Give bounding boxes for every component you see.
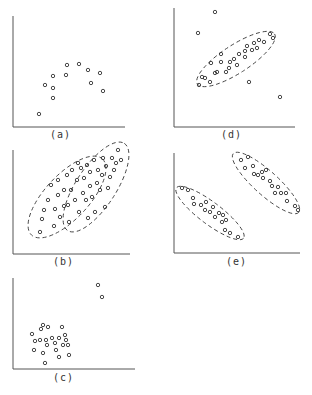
panel-a xyxy=(13,16,125,127)
data-point xyxy=(268,179,271,182)
data-point xyxy=(273,191,276,194)
data-point xyxy=(98,71,101,74)
data-point xyxy=(108,175,111,178)
data-point xyxy=(57,355,60,358)
panel-label-d: (d) xyxy=(221,129,242,140)
data-point xyxy=(66,343,69,346)
data-point xyxy=(264,168,267,171)
data-point xyxy=(77,210,80,213)
data-point xyxy=(65,63,68,66)
data-point xyxy=(239,158,242,161)
data-point xyxy=(82,176,85,179)
data-point xyxy=(228,231,231,234)
data-point xyxy=(192,202,195,205)
data-point xyxy=(70,168,73,171)
data-point xyxy=(213,215,216,218)
data-point xyxy=(255,46,258,49)
data-point xyxy=(57,336,60,339)
data-point xyxy=(112,168,115,171)
data-point xyxy=(79,166,82,169)
data-point xyxy=(56,193,59,196)
data-point xyxy=(75,178,78,181)
panel-label-a: (a) xyxy=(50,129,71,140)
data-point xyxy=(186,188,189,191)
data-point xyxy=(119,158,122,161)
data-point xyxy=(101,89,104,92)
data-point xyxy=(81,191,84,194)
data-point xyxy=(46,198,49,201)
data-point xyxy=(53,207,56,210)
data-point xyxy=(32,348,35,351)
data-point xyxy=(268,32,271,35)
data-point xyxy=(279,191,282,194)
data-point xyxy=(90,195,93,198)
panel-label-e: (e) xyxy=(226,256,247,267)
data-point xyxy=(52,224,55,227)
data-point xyxy=(296,208,299,211)
panel-label-c: (c) xyxy=(53,372,74,383)
data-point xyxy=(98,188,101,191)
panel-e xyxy=(170,145,307,253)
data-point xyxy=(213,10,216,13)
data-point xyxy=(65,173,68,176)
data-point xyxy=(38,230,41,233)
figure-canvas xyxy=(0,0,312,395)
data-point xyxy=(110,156,113,159)
data-point xyxy=(41,323,44,326)
data-point xyxy=(45,343,48,346)
data-point xyxy=(40,217,43,220)
data-point xyxy=(276,185,279,188)
data-point xyxy=(227,66,230,69)
data-point xyxy=(219,60,222,63)
data-point xyxy=(246,155,249,158)
data-point xyxy=(96,283,99,286)
data-point xyxy=(236,235,239,238)
axes xyxy=(13,150,130,254)
panel-c xyxy=(13,278,135,369)
data-point xyxy=(33,339,36,342)
data-point xyxy=(271,36,274,39)
data-point xyxy=(88,170,91,173)
data-point xyxy=(220,220,223,223)
cluster-ellipse xyxy=(170,179,250,247)
data-point xyxy=(250,48,253,51)
data-point xyxy=(191,196,194,199)
axes xyxy=(13,16,125,127)
cluster-ellipse xyxy=(51,132,141,241)
data-point xyxy=(50,336,53,339)
data-point xyxy=(37,112,40,115)
data-point xyxy=(243,49,246,52)
data-point xyxy=(77,62,80,65)
data-point xyxy=(262,40,265,43)
data-point xyxy=(46,325,49,328)
panel-label-b: (b) xyxy=(53,256,74,267)
data-point xyxy=(95,181,98,184)
data-point xyxy=(278,95,281,98)
data-point xyxy=(209,61,212,64)
data-point xyxy=(43,361,46,364)
data-point xyxy=(211,205,214,208)
data-point xyxy=(58,215,61,218)
data-point xyxy=(51,74,54,77)
data-point xyxy=(284,191,287,194)
data-point xyxy=(93,210,96,213)
data-point xyxy=(43,83,46,86)
data-point xyxy=(245,44,248,47)
cluster-ellipse xyxy=(225,145,306,222)
data-point xyxy=(180,186,183,189)
data-point xyxy=(237,52,240,55)
data-point xyxy=(243,55,246,58)
data-point xyxy=(199,203,202,206)
data-point xyxy=(53,341,56,344)
data-point xyxy=(64,338,67,341)
data-point xyxy=(243,166,246,169)
data-point xyxy=(217,211,220,214)
data-point xyxy=(89,81,92,84)
data-point xyxy=(73,198,76,201)
data-point xyxy=(208,80,211,83)
data-point xyxy=(235,63,238,66)
data-point xyxy=(106,186,109,189)
data-point xyxy=(204,200,207,203)
data-point xyxy=(51,96,54,99)
data-point xyxy=(38,338,41,341)
